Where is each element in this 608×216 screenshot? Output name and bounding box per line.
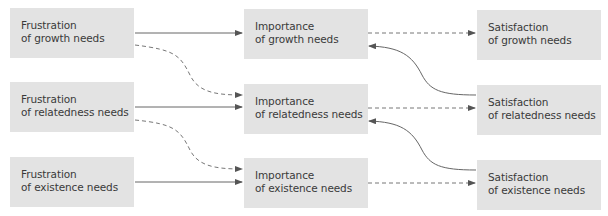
node-label-line2: of relatedness needs — [255, 108, 368, 121]
node-label-line2: of relatedness needs — [21, 106, 134, 119]
node-label-line1: Satisfaction — [488, 96, 601, 109]
node-label-line2: of existence needs — [21, 181, 134, 194]
node-label-line1: Frustration — [21, 168, 134, 181]
edge-satisfaction-relatedness-to-importance-growth — [369, 46, 476, 95]
node-importance-existence: Importance of existence needs — [244, 158, 368, 208]
node-satisfaction-growth: Satisfaction of growth needs — [477, 10, 601, 60]
node-label-line2: of relatedness needs — [488, 109, 601, 122]
node-satisfaction-relatedness: Satisfaction of relatedness needs — [477, 85, 601, 135]
node-label-line1: Importance — [255, 169, 368, 182]
edge-satisfaction-existence-to-importance-relatedness — [369, 121, 476, 170]
node-label-line2: of growth needs — [21, 32, 134, 45]
node-satisfaction-existence: Satisfaction of existence needs — [477, 160, 601, 210]
node-frustration-existence: Frustration of existence needs — [10, 157, 134, 207]
node-label-line1: Importance — [255, 20, 368, 33]
node-importance-relatedness: Importance of relatedness needs — [244, 84, 368, 134]
node-label-line1: Frustration — [21, 19, 134, 32]
node-importance-growth: Importance of growth needs — [244, 9, 368, 59]
node-label-line1: Satisfaction — [488, 21, 601, 34]
node-label-line1: Importance — [255, 95, 368, 108]
node-label-line2: of growth needs — [488, 34, 601, 47]
edge-frustration-growth-to-importance-relatedness — [135, 45, 242, 95]
edge-frustration-relatedness-to-importance-existence — [135, 120, 242, 169]
node-label-line2: of existence needs — [255, 182, 368, 195]
node-label-line1: Frustration — [21, 93, 134, 106]
node-label-line1: Satisfaction — [488, 171, 601, 184]
node-frustration-relatedness: Frustration of relatedness needs — [10, 82, 134, 132]
node-frustration-growth: Frustration of growth needs — [10, 8, 134, 58]
node-label-line2: of growth needs — [255, 33, 368, 46]
node-label-line2: of existence needs — [488, 184, 601, 197]
